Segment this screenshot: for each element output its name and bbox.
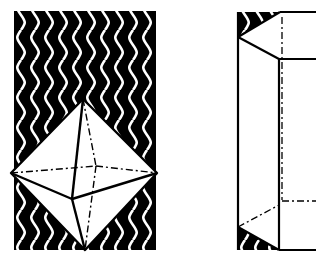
prism-icon	[238, 12, 316, 250]
crystal-figure: Crystal forms: octahedron and prism with…	[0, 0, 316, 261]
right-panel	[238, 12, 316, 250]
left-panel	[11, 11, 157, 250]
